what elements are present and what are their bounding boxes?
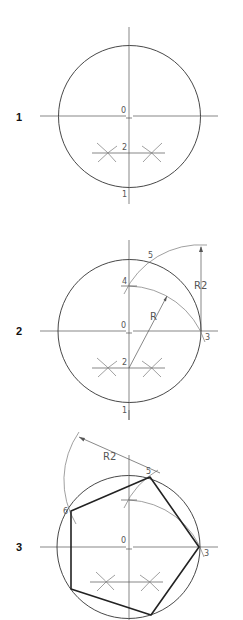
point-label-3: 3 — [204, 549, 209, 558]
point-label-5: 5 — [148, 251, 153, 260]
point-label-0: 0 — [121, 321, 126, 330]
point-label-0: 0 — [121, 536, 126, 545]
arrowhead — [199, 246, 203, 252]
bisector-arc-left — [97, 358, 116, 376]
step-1-figure: 1 0 2 1 — [16, 27, 218, 204]
dimension-label-r: R — [150, 311, 157, 322]
pentagon-construction-diagram: 1 0 2 1 2 — [0, 0, 243, 620]
dimension-label-r2: R2 — [194, 280, 207, 291]
point-label-1: 1 — [122, 190, 127, 199]
arrowhead — [79, 437, 85, 442]
arrowhead — [164, 296, 168, 302]
bisector-arc-left — [97, 143, 116, 162]
bisector-arc-left — [98, 361, 117, 377]
radius-r-arc — [129, 286, 205, 342]
point-label-2: 2 — [122, 143, 127, 152]
step-3-number: 3 — [16, 541, 22, 553]
bisector-arc-left — [96, 572, 114, 590]
point-label-2: 2 — [122, 358, 127, 367]
step-3-figure: 3 0 3 5 6 R2 — [16, 410, 218, 620]
bisector-arc-right — [141, 572, 160, 591]
point-label-5: 5 — [146, 467, 151, 476]
point-label-6: 6 — [63, 507, 68, 516]
bisector-arc-right — [143, 143, 162, 162]
point-label-3: 3 — [205, 333, 210, 342]
bisector-arc-right — [143, 358, 162, 377]
point-label-4: 4 — [122, 277, 127, 286]
circle — [59, 46, 201, 188]
point-label-0: 0 — [121, 106, 126, 115]
radius-r-line — [129, 296, 167, 368]
point-label-1: 1 — [122, 406, 127, 415]
radius-r-arc — [129, 500, 204, 557]
dimension-label-r2: R2 — [103, 451, 116, 462]
step-1-number: 1 — [16, 111, 22, 123]
step-2-figure: 2 0 2 1 3 4 5 R R2 — [16, 240, 218, 420]
step-2-number: 2 — [16, 325, 22, 337]
